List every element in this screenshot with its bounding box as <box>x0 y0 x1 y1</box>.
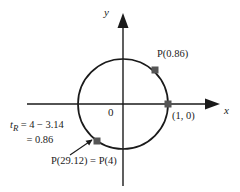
marker-point-1-0 <box>165 101 172 108</box>
label-point-right: (1, 0) <box>172 110 195 122</box>
y-axis-arrowhead <box>118 13 129 28</box>
equation-equals-1: = <box>18 119 29 130</box>
equation-minus: − <box>34 119 45 130</box>
equation-result-value: 0.86 <box>35 134 53 145</box>
y-axis-label: y <box>104 6 109 18</box>
equation-annotation: tR=4−3.14 =0.86 <box>10 119 64 146</box>
label-point-upper: P(0.86) <box>157 48 188 60</box>
unit-circle-figure: y x 0 P(0.86) (1, 0) tR=4−3.14 =0.86 P(2… <box>0 0 240 192</box>
label-point-lower: P(29.12) = P(4) <box>51 155 117 167</box>
origin-label: 0 <box>108 106 114 118</box>
x-axis-arrowhead <box>205 99 220 110</box>
marker-point-0-86 <box>152 67 159 74</box>
annotation-arrow <box>70 140 93 156</box>
equation-equals-2: = <box>24 134 35 145</box>
equation-result-line: =0.86 <box>10 134 64 146</box>
figure-canvas <box>0 0 240 192</box>
x-axis-label: x <box>224 104 229 116</box>
marker-point-4 <box>94 138 101 145</box>
equation-operand-b: 3.14 <box>45 119 63 130</box>
